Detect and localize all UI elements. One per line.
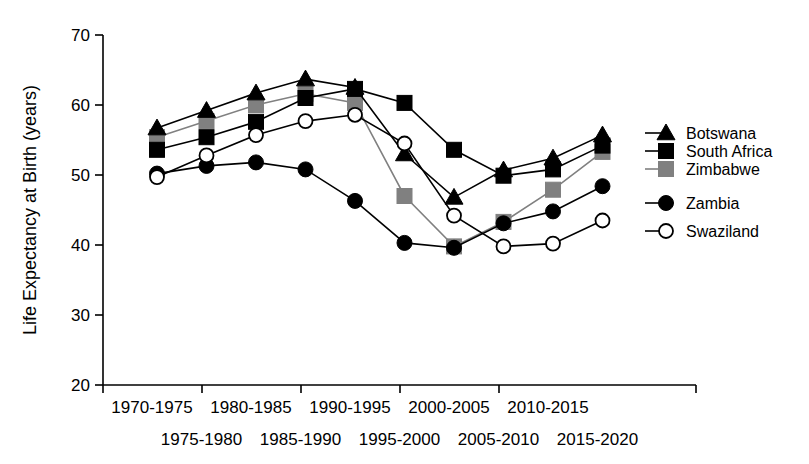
legend-item-zimbabwe[interactable]: Zimbabwe	[645, 161, 760, 178]
data-point	[298, 162, 313, 177]
x-tick-label: 1990-1995	[309, 398, 390, 417]
legend-label: Zambia	[686, 195, 739, 212]
data-point	[299, 114, 313, 128]
x-tick-label: 2000-2005	[408, 398, 489, 417]
data-point	[348, 108, 362, 122]
legend-marker-gray-square-icon	[659, 162, 674, 177]
data-point	[298, 91, 313, 106]
y-axis-title: Life Expectancy at Birth (years)	[20, 85, 40, 335]
data-point	[546, 182, 561, 197]
series-botswana	[148, 70, 612, 204]
y-tick-label: 50	[71, 166, 90, 185]
data-point	[198, 102, 216, 118]
legend-label: Swaziland	[686, 223, 759, 240]
legend-label: Botswana	[686, 125, 756, 142]
data-point	[348, 193, 363, 208]
legend-item-zambia[interactable]: Zambia	[645, 195, 739, 212]
data-point	[398, 137, 412, 151]
x-tick-label: 1970-1975	[111, 398, 192, 417]
legend-item-botswana[interactable]: Botswana	[645, 124, 756, 142]
y-tick-label: 20	[71, 376, 90, 395]
y-tick-label: 40	[71, 236, 90, 255]
legend-marker-filled-triangle-icon	[657, 124, 675, 140]
series-swaziland	[150, 108, 610, 254]
data-point	[200, 148, 214, 162]
x-tick-label: 2015-2020	[557, 430, 638, 449]
data-point	[447, 142, 462, 157]
data-point	[497, 239, 511, 253]
series-line	[157, 162, 603, 247]
data-point	[249, 155, 264, 170]
data-point	[397, 189, 412, 204]
data-point	[397, 95, 412, 110]
x-tick-label: 1985-1990	[260, 430, 341, 449]
x-tick-label: 1975-1980	[161, 430, 242, 449]
data-point	[546, 162, 561, 177]
y-tick-label: 60	[71, 96, 90, 115]
x-tick-label: 2010-2015	[507, 398, 588, 417]
data-point	[249, 114, 264, 129]
data-point	[595, 179, 610, 194]
data-series	[148, 70, 612, 255]
x-tick-label: 1995-2000	[359, 430, 440, 449]
chart-legend: BotswanaSouth AfricaZimbabweZambiaSwazil…	[645, 124, 772, 240]
x-tick-label: 1980-1985	[210, 398, 291, 417]
data-point	[546, 204, 561, 219]
data-point	[447, 240, 462, 255]
data-point	[397, 235, 412, 250]
series-zambia	[150, 155, 611, 255]
series-south-africa	[150, 81, 611, 183]
data-point	[148, 119, 166, 135]
data-point	[348, 81, 363, 96]
series-line	[157, 79, 603, 197]
legend-item-south-africa[interactable]: South Africa	[645, 143, 772, 160]
data-point	[447, 209, 461, 223]
x-tick-label: 2005-2010	[458, 430, 539, 449]
data-point	[596, 214, 610, 228]
data-point	[249, 128, 263, 142]
chart-container: BotswanaSouth AfricaZimbabweZambiaSwazil…	[0, 0, 809, 464]
data-point	[150, 142, 165, 157]
series-line	[157, 94, 603, 247]
data-point	[297, 70, 315, 86]
life-expectancy-line-chart: BotswanaSouth AfricaZimbabweZambiaSwazil…	[0, 0, 809, 464]
legend-item-swaziland[interactable]: Swaziland	[645, 223, 759, 240]
data-point	[546, 237, 560, 251]
data-point	[595, 138, 610, 153]
legend-label: South Africa	[686, 143, 772, 160]
data-point	[199, 130, 214, 145]
series-zimbabwe	[150, 86, 611, 254]
data-point	[445, 188, 463, 204]
y-tick-label: 70	[71, 26, 90, 45]
legend-marker-filled-square-icon	[659, 144, 674, 159]
data-point	[150, 170, 164, 184]
legend-marker-open-circle-icon	[659, 224, 673, 238]
y-tick-label: 30	[71, 306, 90, 325]
series-line	[157, 115, 603, 247]
data-point	[496, 168, 511, 183]
legend-marker-filled-circle-icon	[659, 196, 674, 211]
data-point	[496, 216, 511, 231]
legend-label: Zimbabwe	[686, 161, 760, 178]
